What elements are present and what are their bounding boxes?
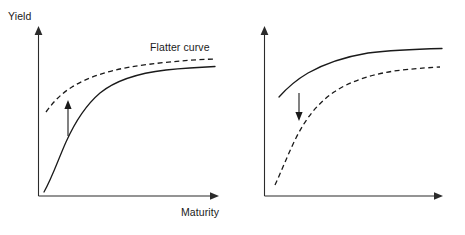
shift-down-arrow-icon [295, 112, 302, 121]
flattening-plot [0, 0, 232, 235]
x-axis-arrow-icon [210, 192, 219, 200]
y-axis-arrow-icon [35, 26, 43, 35]
shift-up-arrow-icon [64, 100, 71, 109]
yield-curve-figure: Yield Maturity Flatter curve Yield Matur… [0, 0, 465, 235]
y-axis-arrow-icon [261, 26, 269, 35]
y-axis-label: Yield [8, 10, 31, 22]
initial-yield-curve [44, 67, 215, 193]
x-axis-label: Maturity [181, 206, 219, 218]
steepening-plot [232, 0, 464, 235]
panel-flattening: Yield Maturity Flatter curve [0, 0, 232, 235]
x-axis-arrow-icon [434, 192, 443, 200]
flatter-yield-curve [46, 59, 215, 112]
initial-yield-curve [279, 49, 442, 98]
flatter-curve-annotation: Flatter curve [150, 41, 210, 53]
panel-steepening: Yield Maturity Steeper curve [232, 0, 464, 235]
steeper-yield-curve [275, 67, 440, 185]
